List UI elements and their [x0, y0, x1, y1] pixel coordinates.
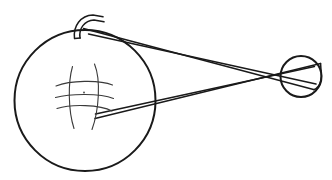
belt-drive-svg	[0, 0, 332, 180]
driver-pulley-group	[15, 30, 156, 171]
diagram-canvas	[0, 0, 332, 180]
hub-center-dot	[83, 92, 85, 94]
driven-pulley-group	[281, 56, 322, 97]
